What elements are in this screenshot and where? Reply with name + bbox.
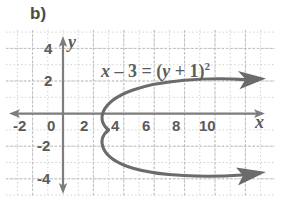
- equation-rhs-number: 1: [190, 61, 199, 81]
- x-axis-label: x: [255, 112, 264, 133]
- equation-plus-operator: +: [170, 61, 189, 81]
- equation-lhs-variable: x: [101, 61, 110, 81]
- x-tick-label-10: 10: [199, 117, 216, 134]
- y-axis-label: y: [68, 32, 76, 53]
- equation-minus-operator: –: [110, 61, 128, 81]
- equation-equals-operator: =: [137, 61, 156, 81]
- x-tick-label-6: 6: [142, 117, 150, 134]
- equation-lhs-number: 3: [128, 61, 137, 81]
- x-tick-label-neg2: -2: [13, 117, 26, 134]
- x-tick-label-2: 2: [80, 117, 88, 134]
- x-tick-label-0: 0: [47, 117, 55, 134]
- y-tick-label-4: 4: [44, 40, 52, 57]
- y-tick-label-neg4: -4: [37, 170, 50, 187]
- y-tick-label-neg2: -2: [37, 137, 50, 154]
- panel-label: b): [30, 4, 46, 24]
- equation-exponent: 2: [205, 60, 211, 72]
- x-tick-label-8: 8: [172, 117, 180, 134]
- equation-annotation: x – 3 = (y + 1)2: [101, 60, 210, 82]
- x-tick-label-4: 4: [111, 117, 119, 134]
- y-tick-label-2: 2: [44, 72, 52, 89]
